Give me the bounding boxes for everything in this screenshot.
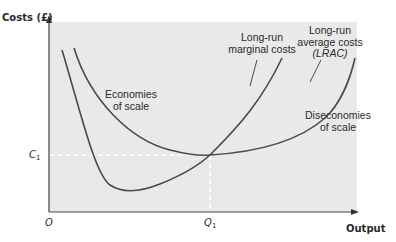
x-axis-arrow-icon bbox=[351, 209, 359, 215]
long-run-cost-chart: Costs (£) Output O C1 Q1 Long-run margin… bbox=[0, 0, 396, 242]
economies-label-line2: of scale bbox=[96, 101, 166, 113]
economies-of-scale-label: Economies of scale bbox=[96, 89, 166, 112]
c1-sub: 1 bbox=[36, 154, 40, 162]
lrac-label: Long-run average costs (LRAC) bbox=[290, 25, 370, 60]
lrac-label-line1: Long-run bbox=[290, 25, 370, 37]
c1-tick-label: C1 bbox=[29, 149, 40, 164]
diseconomies-of-scale-label: Diseconomies of scale bbox=[298, 110, 378, 133]
x-axis-label: Output bbox=[346, 223, 385, 234]
diseconomies-label-line1: Diseconomies bbox=[298, 110, 378, 122]
q1-sub: 1 bbox=[212, 222, 216, 230]
y-axis-label: Costs (£) bbox=[2, 12, 52, 23]
diseconomies-label-line2: of scale bbox=[298, 122, 378, 134]
origin-label: O bbox=[45, 217, 53, 228]
q1-tick-label: Q1 bbox=[204, 217, 216, 232]
lrmc-curve bbox=[62, 50, 282, 191]
q1-main: Q bbox=[204, 217, 212, 228]
lrmc-pointer bbox=[250, 60, 257, 86]
economies-label-line1: Economies bbox=[96, 89, 166, 101]
c1-main: C bbox=[29, 149, 36, 160]
lrac-pointer bbox=[310, 60, 321, 82]
lrac-label-line3: (LRAC) bbox=[290, 48, 370, 60]
